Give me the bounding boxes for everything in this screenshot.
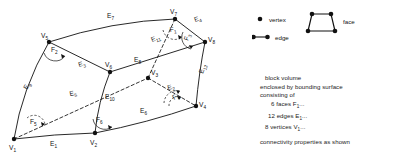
edge-label-E5: E5 (69, 89, 78, 99)
edge-label-E2: E2 (167, 82, 176, 93)
vertex-label-V5: V5 (41, 32, 48, 41)
edge-label-E1: E1 (50, 140, 57, 149)
vertex-dot-V2 (93, 131, 97, 135)
notes-line-faces: 6 faces F1... (260, 100, 401, 112)
vertex-label-V4: V4 (199, 101, 206, 110)
vertex-label-V6: V6 (105, 61, 112, 70)
notes-edges-tail: ... (302, 112, 307, 119)
legend-face-corner-4 (306, 29, 311, 34)
vertex-label-V3: V3 (151, 69, 158, 78)
edge-label-E4: E4 (193, 14, 203, 25)
notes-faces-count: 6 faces F (271, 100, 297, 107)
legend-face-icon (308, 14, 335, 31)
vertex-dot-V1 (12, 137, 16, 141)
legend-face-label: face (343, 18, 355, 25)
vertex-label-V2: V2 (90, 139, 97, 148)
edge-label-E10: E10 (105, 93, 115, 102)
edge-path-E2 (148, 78, 196, 106)
notes-line-enclosed: enclosed by bounding surface (260, 83, 401, 92)
vertex-label-V7: V7 (170, 8, 177, 17)
notes-line-edges: 12 edges E1... (260, 112, 401, 124)
edge-label-E6: E6 (140, 107, 147, 116)
notes-faces-tail: ... (299, 100, 304, 107)
face-label-F5: F5 (30, 118, 37, 127)
vertex-dot-V7 (173, 17, 177, 21)
edge-label-E11: E11 (150, 33, 162, 45)
diagram-page: V1 V2 V3 V4 V5 V6 V7 V8 E1 E2 E3 E4 E5 E… (0, 0, 401, 165)
notes-line-connectivity: connectivity properties as shown (260, 138, 401, 147)
vertex-dot-V6 (108, 70, 112, 74)
block-volume-diagram: V1 V2 V3 V4 V5 V6 V7 V8 E1 E2 E3 E4 E5 E… (0, 0, 250, 165)
legend: vertex edge face (252, 8, 401, 52)
face-label-F1: F1 (169, 25, 177, 35)
edge-label-E9: E9 (22, 81, 33, 92)
edge-label-E12: E12 (197, 63, 209, 75)
vertex-label-V1: V1 (9, 144, 16, 153)
legend-vertex-label: vertex (269, 16, 287, 23)
notes-line-consisting: consisting of (260, 91, 401, 100)
vertex-dot-V4 (194, 104, 198, 108)
notes-block: block volume enclosed by bounding surfac… (260, 74, 401, 147)
face-label-F6: F6 (96, 116, 103, 125)
face-label-F2: F2 (51, 46, 58, 55)
vertex-dot-V8 (203, 40, 207, 44)
notes-edges-count: 12 edges E (268, 112, 299, 119)
notes-line-vertices: 8 vertices V1... (260, 123, 401, 135)
legend-edge-icon-end (265, 35, 270, 40)
legend-edge-icon-start (252, 35, 256, 40)
edge-path-E5 (14, 78, 148, 139)
legend-face-corner-1 (310, 12, 315, 17)
notes-vertices-count: 8 vertices V (265, 123, 298, 130)
vertex-dot-V3 (146, 76, 150, 80)
legend-graphics: vertex edge face (252, 8, 401, 52)
vertex-label-V8: V8 (208, 36, 215, 45)
legend-edge-label: edge (275, 34, 289, 41)
edge-label-E3: E3 (77, 59, 87, 70)
legend-vertex-icon (258, 17, 263, 22)
notes-vertices-tail: ... (300, 123, 305, 130)
edge-label-E7: E7 (107, 12, 114, 21)
legend-face-corner-2 (329, 12, 334, 17)
notes-line-title: block volume (260, 74, 401, 83)
face-label-F3: F3 (182, 32, 193, 41)
vertex-labels: V1 V2 V3 V4 V5 V6 V7 V8 (9, 8, 215, 153)
legend-face-corner-3 (333, 29, 338, 34)
